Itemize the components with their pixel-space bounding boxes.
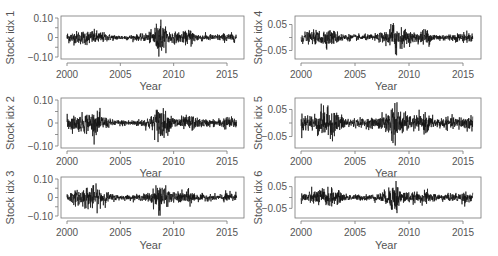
x-axis: 2000200520102015 [56, 63, 239, 80]
x-tick-label: 2010 [398, 69, 421, 80]
y-axis: 0.05−0.05 [262, 19, 292, 56]
x-tick-label: 2015 [216, 156, 239, 167]
y-axis: 0.100−0.10 [28, 95, 58, 152]
y-axis: 0.05−0.05 [262, 181, 292, 214]
y-tick-label: 0.05 [268, 181, 288, 192]
x-tick-label: 2010 [163, 227, 186, 238]
y-tick-label: 0 [47, 118, 53, 129]
y-axis-label: Stock idx 3 [4, 171, 16, 225]
series-line [67, 183, 237, 215]
x-tick-label: 2015 [452, 156, 475, 167]
series-line [67, 20, 237, 57]
figure-canvas: 2000200520102015Year0.100−0.10Stock idx … [0, 0, 498, 256]
x-axis-label: Year [375, 239, 398, 251]
panel-stock-idx-1: 2000200520102015Year0.100−0.10Stock idx … [4, 11, 244, 92]
x-tick-label: 2010 [398, 156, 421, 167]
y-axis: 0.100−0.10 [28, 174, 58, 222]
y-tick-label: −0.10 [28, 52, 54, 63]
y-axis-label: Stock idx 2 [4, 96, 16, 150]
x-tick-label: 2010 [163, 156, 186, 167]
y-tick-label: 0.10 [34, 13, 54, 24]
y-tick-label: 0.05 [268, 19, 288, 30]
x-axis: 2000200520102015 [290, 63, 475, 80]
panel-stock-idx-4: 2000200520102015Year0.05−0.05Stock idx 4 [252, 11, 481, 92]
x-axis: 2000200520102015 [290, 151, 475, 167]
x-tick-label: 2000 [56, 156, 79, 167]
y-tick-label: 0.05 [268, 104, 288, 115]
x-tick-label: 2005 [344, 69, 367, 80]
y-tick-label: −0.05 [262, 45, 288, 56]
y-axis: 0.05−0.05 [262, 104, 292, 142]
x-tick-label: 2005 [109, 69, 132, 80]
series-line [67, 108, 237, 145]
x-tick-label: 2000 [290, 227, 313, 238]
y-tick-label: −0.10 [28, 141, 54, 152]
y-tick-label: −0.10 [28, 211, 54, 222]
y-axis-label: Stock idx 6 [252, 171, 264, 225]
x-tick-label: 2000 [56, 69, 79, 80]
y-tick-label: 0.10 [34, 174, 54, 185]
x-tick-label: 2010 [398, 227, 421, 238]
panel-stock-idx-3: 2000200520102015Year0.100−0.10Stock idx … [4, 171, 244, 251]
x-tick-label: 2000 [290, 156, 313, 167]
x-tick-label: 2005 [344, 227, 367, 238]
y-tick-label: 0 [47, 32, 53, 43]
y-axis: 0.100−0.10 [28, 13, 58, 63]
x-axis-label: Year [375, 80, 398, 92]
x-tick-label: 2015 [452, 69, 475, 80]
y-axis-label: Stock idx 4 [252, 11, 264, 65]
panel-stock-idx-5: 2000200520102015Year0.05−0.05Stock idx 5 [252, 96, 481, 179]
panel-stock-idx-2: 2000200520102015Year0.100−0.10Stock idx … [4, 95, 244, 180]
x-tick-label: 2005 [109, 227, 132, 238]
y-tick-label: 0 [47, 192, 53, 203]
x-axis: 2000200520102015 [56, 151, 239, 167]
x-axis: 2000200520102015 [56, 221, 239, 238]
x-tick-label: 2015 [452, 227, 475, 238]
panel-stock-idx-6: 2000200520102015Year0.05−0.05Stock idx 6 [252, 171, 481, 251]
y-tick-label: −0.05 [262, 203, 288, 214]
x-axis-label: Year [139, 80, 162, 92]
series-line [301, 102, 473, 145]
series-line [301, 181, 473, 213]
x-tick-label: 2000 [290, 69, 313, 80]
x-axis: 2000200520102015 [290, 221, 475, 238]
x-tick-label: 2005 [344, 156, 367, 167]
x-tick-label: 2000 [56, 227, 79, 238]
y-axis-label: Stock idx 1 [4, 11, 16, 65]
y-tick-label: −0.05 [262, 131, 288, 142]
x-axis-label: Year [139, 239, 162, 251]
x-tick-label: 2015 [216, 227, 239, 238]
series-line [301, 23, 473, 55]
x-tick-label: 2005 [109, 156, 132, 167]
y-tick-label: 0.10 [34, 95, 54, 106]
x-tick-label: 2015 [216, 69, 239, 80]
x-tick-label: 2010 [163, 69, 186, 80]
y-axis-label: Stock idx 5 [252, 96, 264, 150]
